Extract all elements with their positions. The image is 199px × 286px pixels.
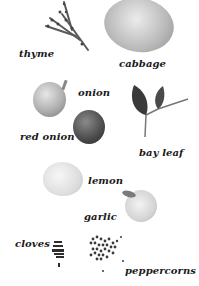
red-onion-label: red onion	[20, 131, 75, 142]
cabbage-image	[100, 0, 178, 58]
lemon-label: lemon	[88, 175, 123, 186]
peppercorns-label: peppercorns	[125, 265, 196, 276]
thyme-label: thyme	[19, 48, 54, 59]
lemon-image	[43, 162, 83, 196]
red-onion-image	[73, 110, 105, 144]
thyme-image	[42, 0, 92, 52]
ingredients-illustration: thyme cabbage onion red onion bay leaf l…	[0, 0, 199, 286]
bay-leaf-image	[130, 83, 190, 139]
cloves-label: cloves	[15, 238, 50, 249]
peppercorns-image	[87, 233, 127, 275]
onion-label: onion	[78, 87, 110, 98]
cloves-image	[52, 239, 66, 269]
garlic-label: garlic	[84, 211, 117, 222]
onion-stem	[61, 80, 67, 90]
bay-leaf-label: bay leaf	[139, 147, 184, 158]
cabbage-label: cabbage	[119, 58, 166, 69]
